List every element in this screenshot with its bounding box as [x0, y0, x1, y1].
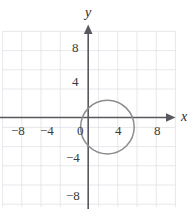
y-tick-label-neg8: −8 — [66, 189, 80, 202]
y-tick-label-8: 8 — [72, 41, 79, 54]
x-tick-label-8: 8 — [154, 124, 161, 137]
y-axis-name: y — [85, 6, 91, 20]
x-tick-label-4: 4 — [115, 124, 122, 137]
x-axis-name: x — [181, 110, 187, 124]
x-tick-label-neg4: −4 — [40, 124, 54, 137]
x-axis-arrow-icon — [166, 113, 176, 122]
coordinate-plane-figure: −8 −4 4 8 0 8 4 −4 −8 x y — [0, 0, 193, 209]
x-tick-label-neg8: −8 — [11, 124, 25, 137]
graph-plot-area — [0, 0, 193, 209]
y-tick-label-neg4: −4 — [66, 151, 80, 164]
origin-label: 0 — [77, 124, 84, 137]
y-tick-label-4: 4 — [72, 75, 79, 88]
y-axis-arrow-icon — [84, 25, 93, 35]
